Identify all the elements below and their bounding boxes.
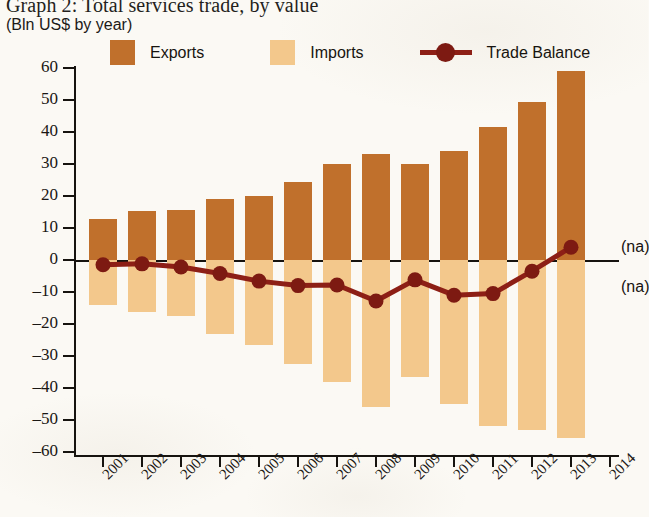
y-axis-tick	[63, 99, 74, 101]
y-axis-tick-label: 60	[0, 57, 58, 77]
chart-legend: Exports Imports Trade Balance	[110, 40, 590, 65]
y-axis-tick	[63, 419, 74, 421]
chart-subtitle: (Bln US$ by year)	[6, 16, 132, 34]
legend-label-imports: Imports	[310, 44, 363, 62]
y-axis-tick	[63, 227, 74, 229]
trade-balance-line	[103, 247, 571, 301]
y-axis-tick-label: 50	[0, 89, 58, 109]
trade-balance-marker	[174, 260, 189, 275]
trade-balance-marker	[447, 288, 462, 303]
y-axis-tick-label: –10	[0, 281, 58, 301]
y-axis-tick-label: 20	[0, 185, 58, 205]
legend-item-trade-balance: Trade Balance	[420, 40, 590, 65]
y-axis-tick-label: –50	[0, 409, 58, 429]
y-axis-tick-label: –30	[0, 345, 58, 365]
plot-area: 6050403020100–10–20–30–40–50–60 20012002…	[74, 66, 619, 457]
y-axis-tick	[63, 355, 74, 357]
trade-balance-marker	[291, 278, 306, 293]
y-axis-tick-label: 10	[0, 217, 58, 237]
legend-item-imports: Imports	[270, 40, 363, 65]
trade-balance-marker	[408, 272, 423, 287]
trade-balance-marker	[135, 256, 150, 271]
trade-balance-marker	[330, 277, 345, 292]
exports-swatch-icon	[110, 40, 135, 65]
trade-balance-series	[74, 66, 619, 457]
na-label-upper: (na)	[621, 238, 649, 256]
na-label-lower: (na)	[621, 278, 649, 296]
y-axis-tick-label: –20	[0, 313, 58, 333]
y-axis-tick	[63, 163, 74, 165]
trade-balance-line-icon	[420, 40, 472, 65]
legend-label-exports: Exports	[150, 44, 204, 62]
y-axis-tick	[63, 131, 74, 133]
y-axis-tick	[63, 291, 74, 293]
legend-item-exports: Exports	[110, 40, 204, 65]
y-axis-tick	[63, 451, 74, 453]
imports-swatch-icon	[270, 40, 295, 65]
trade-balance-marker	[96, 257, 111, 272]
y-axis-tick-label: –60	[0, 441, 58, 461]
y-axis-tick	[63, 259, 74, 261]
trade-balance-marker	[252, 274, 267, 289]
trade-balance-marker	[564, 240, 579, 255]
trade-balance-marker	[213, 266, 228, 281]
y-axis-tick	[63, 323, 74, 325]
y-axis-tick-label: 40	[0, 121, 58, 141]
y-axis-tick	[63, 67, 74, 69]
legend-label-trade-balance: Trade Balance	[487, 44, 590, 62]
y-axis-tick-label: 0	[0, 249, 58, 269]
y-axis-tick-label: 30	[0, 153, 58, 173]
trade-balance-marker	[525, 264, 540, 279]
y-axis-tick-label: –40	[0, 377, 58, 397]
y-axis-tick	[63, 195, 74, 197]
chart-title: Graph 2: Total services trade, by value	[6, 0, 319, 17]
y-axis-tick	[63, 387, 74, 389]
trade-balance-marker	[369, 293, 384, 308]
trade-balance-marker	[486, 286, 501, 301]
